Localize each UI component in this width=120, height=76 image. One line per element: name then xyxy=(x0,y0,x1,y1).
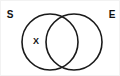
element-label-x: X xyxy=(33,36,39,46)
venn-diagram: S E X xyxy=(0,0,120,76)
venn-diagram-canvas: S E X xyxy=(1,1,120,76)
set-label-e: E xyxy=(109,9,116,20)
set-circle-e xyxy=(46,14,102,70)
set-label-s: S xyxy=(7,9,14,20)
set-circle-s xyxy=(22,14,78,70)
